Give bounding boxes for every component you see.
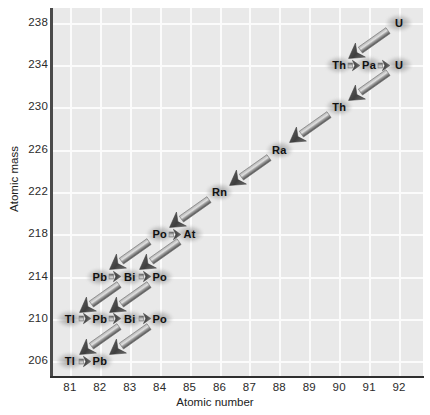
nuclide-node[interactable]: Po	[148, 311, 171, 327]
x-tick-label: 82	[85, 381, 115, 393]
x-tick-label: 91	[354, 381, 384, 393]
nuclide-node[interactable]: Pa	[358, 57, 380, 73]
nuclide-label: Th	[332, 101, 346, 113]
nuclide-label: Bi	[124, 271, 136, 283]
nuclide-label: Th	[332, 59, 346, 71]
y-tick-label: 214	[6, 270, 48, 282]
x-tick-label: 89	[294, 381, 324, 393]
nuclide-label: Ra	[272, 144, 287, 156]
decay-chain-figure: 206210214218222226230234238 818283848586…	[0, 0, 430, 415]
nuclide-label: Tl	[65, 313, 75, 325]
x-tick-label: 84	[145, 381, 175, 393]
y-tick-label: 210	[6, 312, 48, 324]
x-tick-label: 87	[234, 381, 264, 393]
nuclide-node[interactable]: Bi	[120, 269, 140, 285]
nuclide-label: Po	[152, 271, 167, 283]
x-axis-title: Atomic number	[0, 396, 430, 408]
nuclide-label: Bi	[124, 313, 136, 325]
y-tick-label: 234	[6, 58, 48, 70]
gridline-horizontal	[52, 23, 423, 25]
gridline-horizontal	[52, 234, 423, 236]
nuclide-label: Rn	[212, 186, 227, 198]
y-axis-title: Atomic mass	[8, 124, 20, 234]
x-tick-label: 90	[324, 381, 354, 393]
gridline-horizontal	[52, 150, 423, 152]
nuclide-node[interactable]: Tl	[61, 353, 79, 369]
nuclide-node[interactable]: Th	[328, 57, 350, 73]
nuclide-node[interactable]: U	[391, 15, 407, 31]
nuclide-node[interactable]: Rn	[208, 184, 231, 200]
nuclide-label: Po	[152, 313, 167, 325]
nuclide-node[interactable]: Po	[148, 226, 171, 242]
gridline-horizontal	[52, 107, 423, 109]
nuclide-node[interactable]: Pb	[89, 311, 112, 327]
y-tick-label: 206	[6, 354, 48, 366]
nuclide-label: Tl	[65, 355, 75, 367]
x-tick-label: 81	[55, 381, 85, 393]
nuclide-node[interactable]: Pb	[89, 269, 112, 285]
y-axis-line	[50, 8, 53, 378]
gridline-horizontal	[52, 192, 423, 194]
nuclide-node[interactable]: Tl	[61, 311, 79, 327]
y-tick-label: 238	[6, 16, 48, 28]
nuclide-node[interactable]: Po	[148, 269, 171, 285]
nuclide-label: Pb	[93, 313, 108, 325]
x-tick-label: 83	[115, 381, 145, 393]
nuclide-node[interactable]: Ra	[268, 142, 291, 158]
x-tick-label: 92	[384, 381, 414, 393]
nuclide-label: Pa	[362, 59, 376, 71]
x-tick-label: 85	[175, 381, 205, 393]
nuclide-label: U	[395, 17, 403, 29]
x-tick-label: 86	[205, 381, 235, 393]
x-axis-line	[50, 376, 424, 378]
x-tick-label: 88	[264, 381, 294, 393]
nuclide-label: U	[395, 59, 403, 71]
nuclide-node[interactable]: At	[180, 226, 200, 242]
nuclide-node[interactable]: U	[391, 57, 407, 73]
nuclide-label: Pb	[93, 355, 108, 367]
nuclide-node[interactable]: Pb	[89, 353, 112, 369]
nuclide-node[interactable]: Th	[328, 99, 350, 115]
nuclide-label: Pb	[93, 271, 108, 283]
nuclide-node[interactable]: Bi	[120, 311, 140, 327]
nuclide-label: At	[184, 228, 196, 240]
nuclide-label: Po	[152, 228, 167, 240]
y-tick-label: 230	[6, 100, 48, 112]
